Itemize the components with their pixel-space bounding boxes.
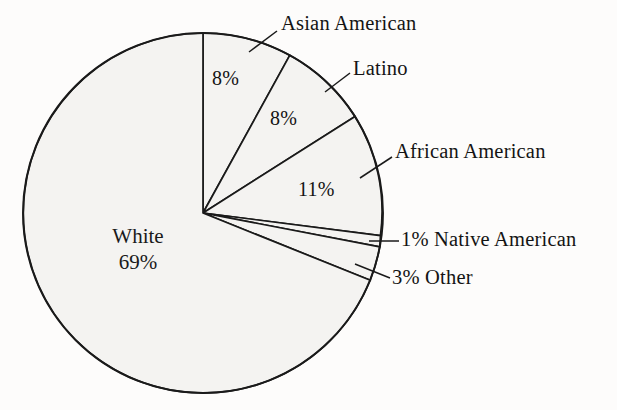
label-latino: Latino <box>353 57 408 80</box>
label-other: 3% Other <box>392 266 473 289</box>
label-white-name: White <box>83 224 193 250</box>
pie-chart-graphic <box>0 0 617 410</box>
leader-line-latino <box>325 73 350 92</box>
value-white: 69% <box>83 250 193 276</box>
pie-chart-figure: Asian American Latino African American 1… <box>0 0 617 410</box>
value-latino: 8% <box>270 107 297 130</box>
value-african-american: 11% <box>298 178 335 201</box>
label-asian-american: Asian American <box>281 12 416 35</box>
value-asian-american: 8% <box>212 67 239 90</box>
label-african-american: African American <box>395 140 546 163</box>
label-white: White 69% <box>83 224 193 275</box>
label-native-american: 1% Native American <box>401 228 577 251</box>
